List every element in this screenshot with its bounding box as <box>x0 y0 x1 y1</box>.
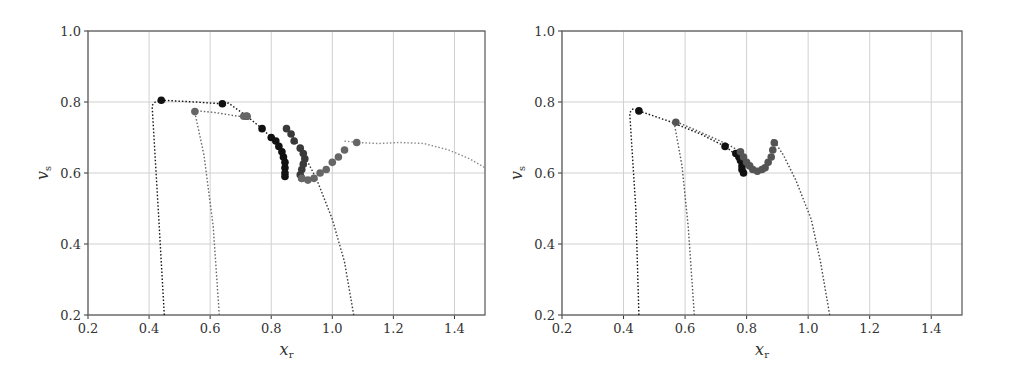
x-tick-label: 0.8 <box>261 321 282 336</box>
data-point <box>243 112 251 120</box>
chart-left: 0.20.40.60.81.01.21.40.20.40.60.81.0xrvs… <box>0 0 1012 372</box>
series-line-trajectory-gray <box>195 111 250 315</box>
series-line-trajectory-dark-gray <box>771 139 830 315</box>
plot-area <box>630 107 830 315</box>
y-tick-label: 0.4 <box>534 237 555 252</box>
data-point <box>740 169 748 177</box>
data-point <box>769 146 777 154</box>
x-tick-label: 0.4 <box>613 321 634 336</box>
y-tick-label: 0.8 <box>534 95 555 110</box>
data-point <box>290 137 298 145</box>
y-tick-label: 0.4 <box>60 237 81 252</box>
x-tick-label: 0.4 <box>139 321 160 336</box>
data-point <box>635 107 643 115</box>
x-tick-label: 0.8 <box>736 321 757 336</box>
y-tick-label: 1.0 <box>60 24 81 39</box>
data-point <box>341 146 349 154</box>
chart-right: 0.20.40.60.81.01.21.40.20.40.60.81.0xrvs <box>507 24 962 360</box>
data-point <box>287 130 295 138</box>
data-point <box>322 166 330 174</box>
x-tick-label: 1.0 <box>798 321 819 336</box>
y-tick-label: 0.8 <box>60 95 81 110</box>
data-point <box>157 96 165 104</box>
x-tick-label: 0.2 <box>552 321 573 336</box>
data-point <box>310 175 318 183</box>
data-point <box>335 153 343 161</box>
data-point <box>767 153 775 161</box>
data-point <box>771 139 779 147</box>
chart-left: 0.20.40.60.81.01.21.40.20.40.60.81.0xrvs <box>33 24 485 360</box>
x-tick-label: 1.2 <box>383 321 404 336</box>
x-tick-label: 1.4 <box>444 321 465 336</box>
x-tick-label: 0.2 <box>78 321 99 336</box>
series-line-trajectory-dark-gray <box>287 129 354 315</box>
series-line-trajectory-light-gray <box>345 141 486 168</box>
data-point <box>353 139 361 147</box>
x-tick-label: 0.6 <box>675 321 696 336</box>
series-line-trajectory-black <box>630 109 744 315</box>
x-axis-label: xr <box>280 340 294 360</box>
data-point <box>258 125 266 133</box>
y-tick-label: 0.6 <box>534 166 555 181</box>
y-tick-label: 1.0 <box>534 24 555 39</box>
x-axis-label: xr <box>755 340 769 360</box>
y-tick-label: 0.2 <box>534 308 555 323</box>
x-tick-label: 1.2 <box>859 321 880 336</box>
data-point <box>672 118 680 126</box>
x-tick-label: 1.4 <box>921 321 942 336</box>
y-axis-label: vs <box>507 166 527 180</box>
y-tick-label: 0.2 <box>60 308 81 323</box>
series-line-trajectory-black <box>152 100 285 315</box>
data-point <box>329 159 337 167</box>
data-point <box>191 108 199 116</box>
data-point <box>281 173 289 181</box>
y-tick-label: 0.6 <box>60 166 81 181</box>
data-point <box>721 143 729 151</box>
y-axis-label: vs <box>33 166 53 180</box>
figure: 0.20.40.60.81.01.21.40.20.40.60.81.0xrvs… <box>0 0 1012 372</box>
x-tick-label: 0.6 <box>200 321 221 336</box>
plot-area <box>152 96 485 315</box>
data-point <box>219 100 227 108</box>
series-line-trajectory-gray <box>674 122 740 316</box>
x-tick-label: 1.0 <box>322 321 343 336</box>
